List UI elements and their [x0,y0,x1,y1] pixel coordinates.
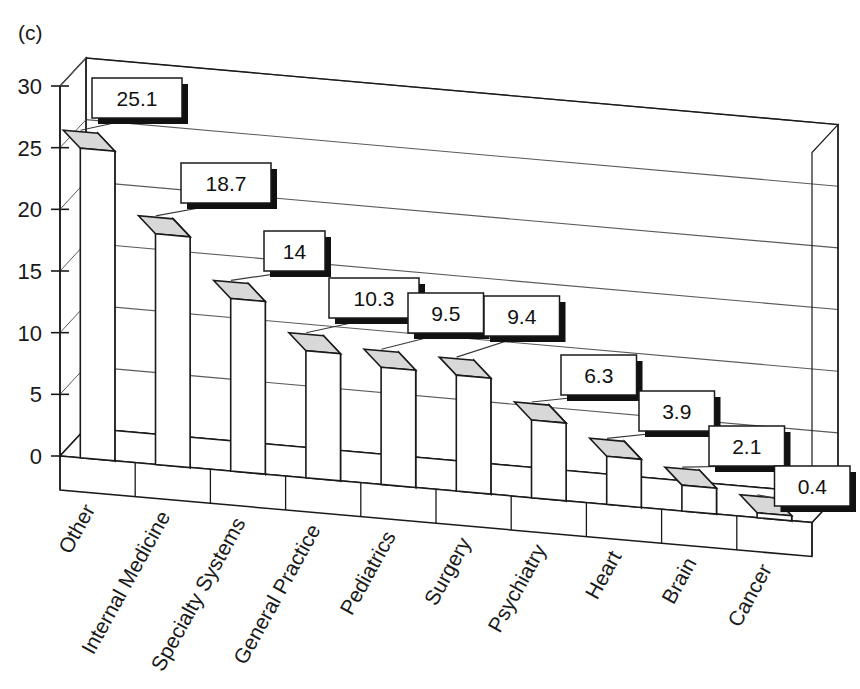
bar-front-face [532,420,567,501]
bar-front-face [306,351,341,481]
bar-front-face [456,375,491,494]
y-tick-label: 30 [18,74,42,99]
y-tick-label: 10 [18,321,42,346]
y-tick-label: 20 [18,197,42,222]
chart-figure: (c) 051015202530 25.118.71410.39.59.46.3… [0,0,860,689]
value-label-text: 9.5 [431,302,460,325]
value-label-text: 10.3 [354,287,395,310]
y-tick-label: 5 [30,382,42,407]
bar-front-face [231,298,266,474]
value-label-text: 0.4 [798,475,828,498]
value-label-text: 25.1 [117,87,158,110]
panel-label: (c) [18,21,43,44]
value-label-text: 14 [283,240,307,263]
bar-front-face [80,148,115,461]
y-tick-label: 0 [30,444,42,469]
bar-front-face [682,485,717,514]
value-label-text: 3.9 [662,400,691,423]
bar-front-face [156,234,191,468]
value-label-text: 9.4 [507,305,537,328]
bar-front-face [607,456,642,507]
bar-chart-3d: (c) 051015202530 25.118.71410.39.59.46.3… [0,0,860,689]
value-label-text: 18.7 [206,172,247,195]
value-label-text: 2.1 [732,435,761,458]
y-tick-label: 15 [18,259,42,284]
y-tick-label: 25 [18,136,42,161]
value-label-text: 6.3 [584,364,613,387]
bar-front-face [381,367,416,487]
